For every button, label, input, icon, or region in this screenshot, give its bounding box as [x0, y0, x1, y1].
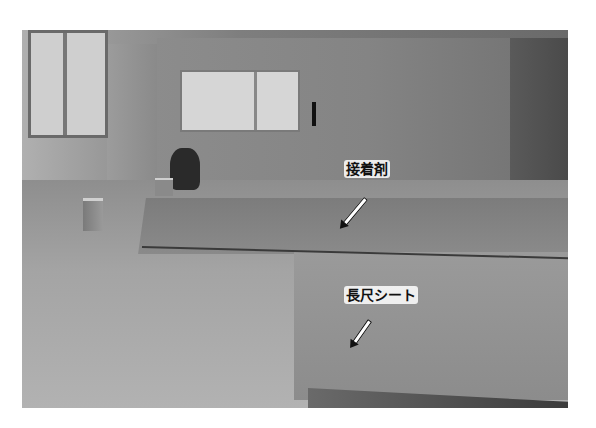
- right-wall: [510, 38, 568, 198]
- adhesive-bucket: [83, 198, 103, 231]
- long-sheet-area: [294, 252, 568, 400]
- left-window: [28, 30, 108, 138]
- construction-photo: [22, 30, 568, 408]
- column: [107, 44, 157, 186]
- adhesive-label: 接着剤: [344, 160, 390, 178]
- wall-mark: [312, 102, 316, 126]
- worker: [170, 148, 200, 190]
- adhesive-area: [138, 198, 568, 254]
- back-window: [180, 70, 300, 132]
- small-bucket: [155, 178, 173, 196]
- long-sheet-label: 長尺シート: [344, 286, 418, 304]
